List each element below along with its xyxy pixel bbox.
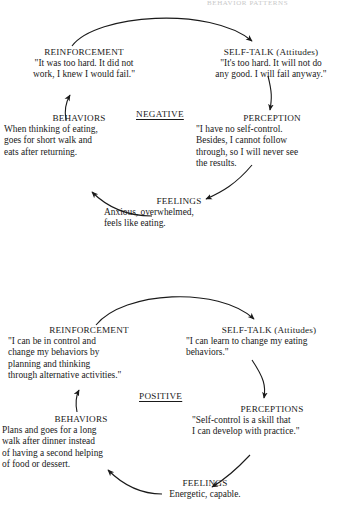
- node-positive-perceptions: PERCEPTIONS "Self-control is a skill tha…: [192, 404, 352, 438]
- node-title: REINFORCEMENT: [8, 47, 160, 58]
- arrow-positive-selftalk-to-perceptions: [252, 360, 265, 398]
- diagram-page: BEHAVIOR PATTERNS REINFORCEMENT "It was …: [0, 0, 354, 509]
- node-title: SELF-TALK (Attitudes): [186, 325, 352, 336]
- node-positive-behaviors: BEHAVIORS Plans and goes for a long walk…: [2, 414, 160, 470]
- node-body: "I have no self-control. Besides, I cann…: [196, 124, 348, 168]
- node-body: "I can be in control and change my behav…: [8, 336, 170, 380]
- node-title: FEELINGS: [104, 196, 254, 207]
- node-positive-reinforcement: REINFORCEMENT "I can be in control and c…: [8, 325, 170, 381]
- node-title: BEHAVIORS: [4, 113, 154, 124]
- arrow-negative-perception-to-feelings: [206, 165, 252, 199]
- node-title: REINFORCEMENT: [8, 325, 170, 336]
- node-body: When thinking of eating, goes for short …: [4, 124, 154, 157]
- arrow-positive-reinforcement-to-selftalk: [96, 297, 254, 325]
- node-body: "It was too hard. It did not work, I kne…: [8, 58, 160, 80]
- node-positive-feelings: FEELINGS Energetic, capable.: [130, 478, 280, 500]
- node-body: "It's too hard. It will not do any good.…: [192, 58, 350, 80]
- cropped-header-text: BEHAVIOR PATTERNS: [207, 0, 288, 5]
- node-body: "I can learn to change my eating behavio…: [186, 336, 352, 358]
- node-title: FEELINGS: [130, 478, 280, 489]
- arrow-negative-reinforcement-to-selftalk: [72, 18, 252, 46]
- node-body: Anxious, overwhelmed, feels like eating.: [104, 207, 254, 229]
- cycle-label-positive: POSITIVE: [139, 391, 182, 401]
- cycle-label-negative: NEGATIVE: [136, 109, 184, 119]
- node-title: PERCEPTION: [196, 113, 348, 124]
- node-body: "Self-control is a skill that I can deve…: [192, 415, 352, 437]
- node-negative-feelings: FEELINGS Anxious, overwhelmed, feels lik…: [104, 196, 254, 230]
- arrow-negative-selftalk-to-perception: [268, 76, 271, 110]
- node-title: PERCEPTIONS: [192, 404, 352, 415]
- node-negative-perception: PERCEPTION "I have no self-control. Besi…: [196, 113, 348, 169]
- node-negative-behaviors: BEHAVIORS When thinking of eating, goes …: [4, 113, 154, 158]
- node-negative-self-talk: SELF-TALK (Attitudes) "It's too hard. It…: [192, 47, 350, 81]
- node-body: Energetic, capable.: [130, 489, 280, 500]
- node-negative-reinforcement: REINFORCEMENT "It was too hard. It did n…: [8, 47, 160, 81]
- node-positive-self-talk: SELF-TALK (Attitudes) "I can learn to ch…: [186, 325, 352, 359]
- node-title: BEHAVIORS: [2, 414, 160, 425]
- node-body: Plans and goes for a long walk after din…: [2, 425, 160, 469]
- arrow-positive-behaviors-to-reinforcement: [76, 390, 79, 412]
- node-title: SELF-TALK (Attitudes): [192, 47, 350, 58]
